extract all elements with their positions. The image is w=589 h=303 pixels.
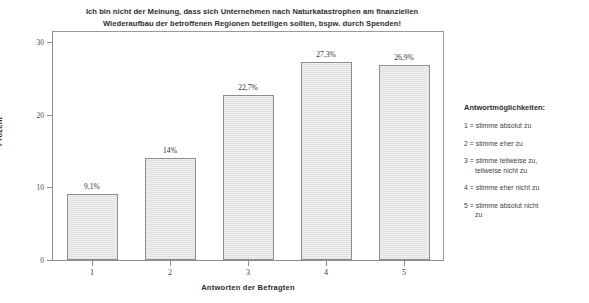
bar	[67, 194, 118, 260]
legend-item: 1 = stimme absolut zu	[464, 121, 584, 131]
bar-value-label: 22,7%	[238, 83, 258, 92]
x-tick-mark	[248, 261, 249, 266]
legend-item-label: 5 = stimme absolut nicht	[464, 202, 539, 209]
bar-value-label: 26,9%	[394, 53, 414, 62]
legend-item-label: 1 = stimme absolut zu	[464, 122, 531, 129]
plot-area	[53, 32, 443, 260]
legend-item-label-continued: teilweise nicht zu	[464, 166, 584, 176]
y-tick-label: 0	[22, 256, 44, 265]
legend-item: 3 = stimme teilweise zu,teilweise nicht …	[464, 156, 584, 175]
y-tick-label: 20	[22, 110, 44, 119]
bar	[145, 158, 196, 260]
x-tick-label: 2	[168, 268, 172, 277]
y-axis-title: Prozent	[0, 117, 4, 146]
x-tick-label: 5	[402, 268, 406, 277]
x-axis-title: Antworten der Befragten	[52, 283, 444, 292]
legend-item-label: 3 = stimme teilweise zu,	[464, 157, 537, 164]
legend-item: 4 = stimme eher nicht zu	[464, 183, 584, 193]
x-tick-label: 3	[246, 268, 250, 277]
legend-items: 1 = stimme absolut zu2 = stimme eher zu3…	[464, 121, 584, 220]
x-tick-mark	[170, 261, 171, 266]
bar-value-label: 27,3%	[316, 50, 336, 59]
x-tick-mark	[92, 261, 93, 266]
chart-title-line-1: Ich bin nicht der Meinung, dass sich Unt…	[52, 6, 452, 18]
legend-item: 5 = stimme absolut nichtzu	[464, 201, 584, 220]
legend-item: 2 = stimme eher zu	[464, 139, 584, 149]
x-tick-label: 4	[324, 268, 328, 277]
legend: Antwortmöglichkeiten: 1 = stimme absolut…	[464, 103, 584, 228]
legend-title: Antwortmöglichkeiten:	[464, 103, 584, 112]
bar	[223, 95, 274, 260]
bar-chart-figure: Ich bin nicht der Meinung, dass sich Unt…	[0, 0, 589, 303]
y-tick-mark	[47, 260, 53, 261]
bar-value-label: 9,1%	[84, 182, 100, 191]
x-tick-label: 1	[90, 268, 94, 277]
legend-item-label: 2 = stimme eher zu	[464, 140, 523, 147]
legend-item-label-continued: zu	[464, 210, 584, 220]
chart-title: Ich bin nicht der Meinung, dass sich Unt…	[52, 6, 452, 29]
legend-item-label: 4 = stimme eher nicht zu	[464, 184, 539, 191]
bar	[379, 65, 430, 260]
x-tick-mark	[404, 261, 405, 266]
x-tick-mark	[326, 261, 327, 266]
bar	[301, 62, 352, 260]
y-tick-label: 30	[22, 38, 44, 47]
y-tick-label: 10	[22, 183, 44, 192]
chart-title-line-2: Wiederaufbau der betroffenen Regionen be…	[52, 18, 452, 30]
bar-value-label: 14%	[163, 146, 177, 155]
